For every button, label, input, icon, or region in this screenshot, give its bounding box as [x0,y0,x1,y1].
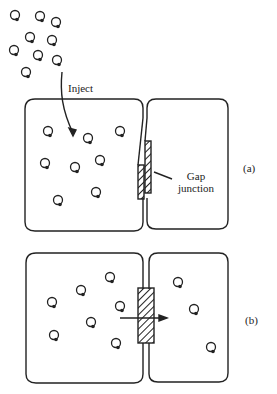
gap-junction-label: Gap junction [176,170,216,194]
gap-junction-diagram [0,0,277,394]
panel-a-label: (a) [243,162,255,174]
cell-a-right [147,99,228,229]
gap-junction-b [138,288,154,343]
gap-label-line2: junction [176,182,216,194]
panel-b-label: (b) [245,314,258,326]
gap-label-line1: Gap [176,170,216,182]
cell-a-left [25,99,143,231]
inject-label: Inject [68,82,93,94]
